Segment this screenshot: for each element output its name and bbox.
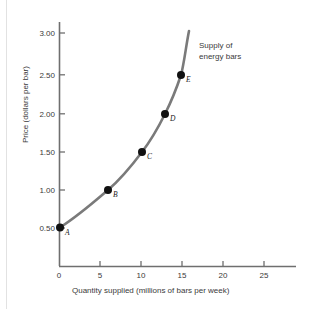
- data-point-a: [56, 224, 64, 232]
- x-tick-label-15: 15: [170, 271, 194, 280]
- x-tick-label-0: 0: [47, 271, 71, 280]
- x-tick-label-5: 5: [88, 271, 112, 280]
- x-axis-title: Quantity supplied (millions of bars per …: [72, 286, 229, 295]
- supply-curve-figure: 3.00 2.50 2.00 1.50 1.00 0.50 0 5 10 15 …: [0, 0, 312, 309]
- data-point-d: [161, 110, 169, 118]
- y-tick-label-2.00: 2.00: [29, 110, 55, 119]
- y-tick-label-1.00: 1.00: [29, 186, 55, 195]
- y-tick-label-2.50: 2.50: [29, 71, 55, 80]
- supply-curve-annotation: Supply of energy bars: [199, 41, 241, 62]
- data-point-b: [104, 186, 112, 194]
- supply-curve-line: [60, 31, 189, 228]
- x-tick-label-10: 10: [129, 271, 153, 280]
- y-tick-label-1.50: 1.50: [29, 148, 55, 157]
- point-label-e: E: [186, 75, 191, 84]
- x-axis-ticks: [100, 261, 264, 267]
- x-tick-label-25: 25: [252, 271, 276, 280]
- data-point-c: [138, 148, 146, 156]
- point-label-c: C: [147, 152, 152, 161]
- point-label-a: A: [65, 228, 70, 237]
- y-tick-label-3.00: 3.00: [29, 29, 55, 38]
- data-point-markers: [56, 71, 185, 232]
- point-label-d: D: [170, 114, 175, 123]
- annotation-line-2: energy bars: [199, 52, 241, 63]
- point-label-b: B: [113, 190, 118, 199]
- data-point-e: [177, 71, 185, 79]
- x-tick-label-20: 20: [211, 271, 235, 280]
- y-axis-ticks: [60, 33, 66, 228]
- y-axis-title: Price (dollars per bar): [21, 50, 30, 160]
- annotation-line-1: Supply of: [199, 41, 241, 52]
- y-tick-label-0.50: 0.50: [29, 224, 55, 233]
